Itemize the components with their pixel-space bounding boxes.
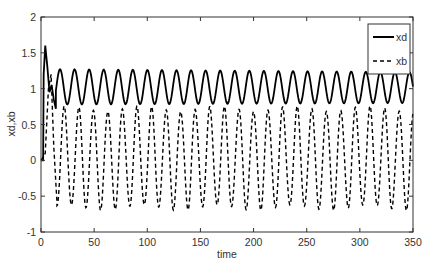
- y-tick-label: -1: [27, 226, 36, 238]
- x-tick-label: 250: [298, 236, 316, 248]
- legend-label-xb: xb: [396, 55, 407, 67]
- legend-label-xd: xd: [396, 31, 407, 43]
- y-tick-label: 1.5: [21, 47, 36, 59]
- x-tick-label: 0: [38, 236, 44, 248]
- y-tick-label: 2: [30, 11, 36, 23]
- x-tick-label: 300: [351, 236, 369, 248]
- y-tick-label: 0: [30, 154, 36, 166]
- x-axis-label: time: [217, 248, 237, 260]
- y-tick-label: -0.5: [18, 190, 36, 202]
- y-axis-label: xd,xb: [5, 111, 17, 136]
- x-tick-label: 200: [245, 236, 263, 248]
- y-tick-label: 0.5: [21, 119, 36, 131]
- x-tick-label: 100: [139, 236, 157, 248]
- y-tick-label: 1: [30, 83, 36, 95]
- x-tick-label: 150: [192, 236, 210, 248]
- legend: xd xb: [368, 24, 410, 74]
- x-tick-label: 350: [404, 236, 422, 248]
- x-tick-label: 50: [88, 236, 100, 248]
- line-chart: 050100150200250300350-1-0.500.511.52 tim…: [0, 0, 432, 272]
